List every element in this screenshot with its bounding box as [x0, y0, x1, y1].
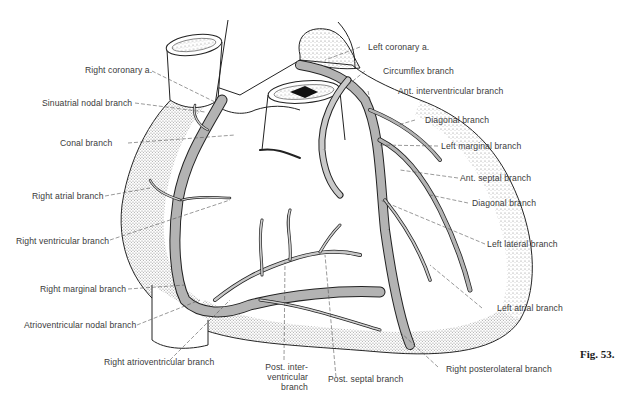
label-left-marginal-branch: Left marginal branch	[441, 141, 521, 151]
label-post-septal-branch: Post. septal branch	[328, 374, 403, 384]
label-atrioventricular-nodal-branch: Atrioventricular nodal branch	[24, 320, 136, 330]
label-right-posterolateral-branch: Right posterolateral branch	[446, 364, 552, 374]
label-conal-branch: Conal branch	[60, 138, 112, 148]
label-ant-interventricular-branch: Ant. interventricular branch	[398, 86, 504, 96]
label-post-interventricular-branch: Post. inter- ventricular branch	[262, 362, 308, 392]
label-ant-septal-branch: Ant. septal branch	[460, 173, 531, 183]
label-sinuatrial-nodal-branch: Sinuatrial nodal branch	[42, 98, 132, 108]
label-right-atrioventricular-branch: Right atrioventricular branch	[104, 357, 214, 367]
label-right-ventricular-branch: Right ventricular branch	[16, 236, 109, 246]
label-diagonal-branch-2: Diagonal branch	[472, 198, 536, 208]
label-left-lateral-branch: Left lateral branch	[487, 239, 558, 249]
label-right-coronary-a: Right coronary a.	[85, 65, 152, 75]
label-right-atrial-branch: Right atrial branch	[32, 191, 104, 201]
label-left-atrial-branch: Left atrial branch	[497, 303, 563, 313]
label-left-coronary-a: Left coronary a.	[368, 42, 429, 52]
label-diagonal-branch-1: Diagonal branch	[425, 115, 489, 125]
figure-number: Fig. 53.	[580, 348, 615, 360]
label-circumflex-branch: Circumflex branch	[383, 66, 454, 76]
label-right-marginal-branch: Right marginal branch	[40, 284, 126, 294]
